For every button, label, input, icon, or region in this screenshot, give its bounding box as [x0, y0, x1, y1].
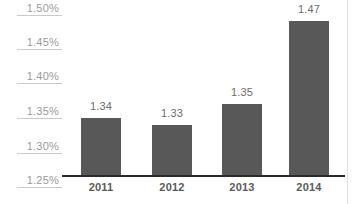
bar-value-label: 1.34 — [90, 100, 112, 112]
bar — [152, 125, 192, 175]
y-axis-tick-label: 1.35% — [27, 105, 59, 117]
y-axis-tick-rule — [17, 83, 62, 84]
bar — [81, 118, 121, 175]
y-axis-tick: 1.45% — [0, 36, 62, 50]
y-axis-tick-rule — [17, 49, 62, 50]
bar-value-label: 1.33 — [161, 107, 183, 119]
panel-right-border — [347, 0, 348, 204]
y-axis: 1.50% 1.45% 1.40% 1.35% 1.30% 1.25% — [0, 0, 66, 204]
y-axis-tick-label: 1.30% — [27, 140, 59, 152]
bar-group-2011: 1.34 — [68, 0, 134, 175]
y-axis-tick-label: 1.40% — [27, 70, 59, 82]
y-axis-tick-rule — [17, 15, 62, 16]
plot-area: 1.34 1.33 1.35 1.47 2011 2012 2013 2014 — [62, 0, 345, 204]
bar-group-2014: 1.47 — [276, 0, 342, 175]
bar-series: 1.34 1.33 1.35 1.47 — [62, 0, 345, 175]
y-axis-tick: 1.30% — [0, 140, 62, 154]
y-axis-tick-rule — [17, 153, 62, 154]
y-axis-tick: 1.25% — [0, 174, 62, 188]
bar-value-label: 1.35 — [231, 86, 253, 98]
x-axis-tick-label: 2012 — [139, 181, 205, 193]
y-axis-tick-rule — [17, 118, 62, 119]
bar — [222, 104, 262, 175]
y-axis-tick: 1.50% — [0, 2, 62, 16]
y-axis-tick-label: 1.45% — [27, 36, 59, 48]
y-axis-tick-label: 1.25% — [27, 174, 59, 186]
bar-group-2013: 1.35 — [209, 0, 275, 175]
bar — [289, 21, 329, 175]
x-axis-tick-label: 2014 — [276, 181, 342, 193]
y-axis-tick: 1.40% — [0, 70, 62, 84]
x-axis: 2011 2012 2013 2014 — [62, 177, 345, 201]
y-axis-tick-rule — [17, 187, 62, 188]
y-axis-tick: 1.35% — [0, 105, 62, 119]
bar-chart: 1.50% 1.45% 1.40% 1.35% 1.30% 1.25% 1.34 — [0, 0, 357, 204]
y-axis-tick-label: 1.50% — [27, 2, 59, 14]
x-axis-tick-label: 2011 — [68, 181, 134, 193]
x-axis-tick-label: 2013 — [209, 181, 275, 193]
bar-group-2012: 1.33 — [139, 0, 205, 175]
bar-value-label: 1.47 — [298, 3, 320, 15]
